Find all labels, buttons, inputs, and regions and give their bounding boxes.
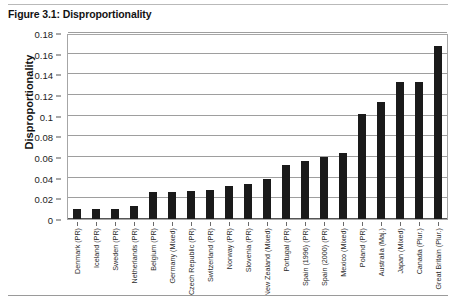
bar-slot: [87, 35, 106, 219]
x-axis-slot: Mexico (Mixed): [334, 222, 353, 296]
x-axis-tick-label: Slovenia (PR): [243, 228, 252, 272]
y-axis-tick-label: 0.06: [35, 153, 54, 164]
x-axis-tick-mark: [419, 222, 420, 226]
x-axis-slot: Portugal (PR): [277, 222, 296, 296]
bar-slot: [68, 35, 87, 219]
x-axis-tick-label: Japan (Mixed): [396, 228, 405, 274]
figure-title: Figure 3.1: Disproportionality: [8, 8, 151, 20]
x-axis-slot: Germany (Mixed): [162, 222, 181, 296]
y-axis-tick-mark: [56, 116, 61, 117]
bar: [187, 191, 195, 219]
x-axis-slot: Denmark (PR): [67, 222, 86, 296]
bar-slot: [409, 35, 428, 219]
x-axis-tick-mark: [438, 222, 439, 226]
y-axis-tick-mark: [56, 54, 61, 55]
x-axis-tick-mark: [362, 222, 363, 226]
x-axis-tick-mark: [267, 222, 268, 226]
bar: [149, 192, 157, 219]
x-axis-tick-label: Australia (Maj.): [377, 228, 386, 276]
x-axis-slot: Belgium (PR): [143, 222, 162, 296]
x-axis-tick-mark: [210, 222, 211, 226]
x-axis-slot: Spain (1996) (PR): [296, 222, 315, 296]
x-axis-tick-mark: [229, 222, 230, 226]
bar-slot: [333, 35, 352, 219]
bar: [92, 209, 100, 219]
x-axis-slot: Canada (Plur.): [410, 222, 429, 296]
x-axis-slot: Netherlands (PR): [124, 222, 143, 296]
bar-chart: Disproportionality 00.020.040.060.080.10…: [0, 26, 456, 296]
y-axis-tick-mark: [56, 199, 61, 200]
bar: [434, 46, 442, 219]
x-axis-tick-mark: [191, 222, 192, 226]
bar: [358, 114, 366, 219]
bar: [225, 186, 233, 219]
bar: [168, 192, 176, 219]
y-axis-tick-mark: [56, 178, 61, 179]
y-axis-tick-mark: [56, 34, 61, 35]
bar-slot: [125, 35, 144, 219]
top-divider: [8, 4, 448, 5]
bar-slot: [220, 35, 239, 219]
y-axis-tick-label: 0.16: [35, 49, 54, 60]
x-axis-tick-mark: [115, 222, 116, 226]
x-axis-tick-mark: [400, 222, 401, 226]
bar-series: [68, 35, 447, 219]
y-axis-tick-label: 0.04: [35, 173, 54, 184]
x-axis-slot: Iceland (PR): [86, 222, 105, 296]
bottom-divider: [8, 295, 448, 296]
x-axis-tick-label: Canada (Plur.): [415, 228, 424, 274]
x-axis-tick-label: Norway (PR): [224, 228, 233, 269]
bar: [339, 153, 347, 219]
x-axis-slot: Norway (PR): [219, 222, 238, 296]
x-axis-tick-label: Sweden (PR): [110, 228, 119, 271]
x-axis-tick-label: Great Britain (Plur.): [434, 228, 443, 290]
plot-area: [67, 34, 448, 220]
x-axis-slot: Japan (Mixed): [391, 222, 410, 296]
bar: [111, 209, 119, 219]
y-axis-tick-label: 0.14: [35, 70, 54, 81]
x-axis-tick-label: New Zealand (Mixed): [262, 228, 271, 296]
bar-slot: [106, 35, 125, 219]
x-axis-tick-mark: [77, 222, 78, 226]
bar: [73, 209, 81, 219]
bar: [244, 184, 252, 219]
x-axis-tick-label: Portugal (PR): [282, 228, 291, 272]
x-axis-tick-mark: [153, 222, 154, 226]
y-axis-tick-label: 0.1: [40, 111, 53, 122]
x-axis-tick-label: Germany (Mixed): [167, 228, 176, 284]
y-axis-tick-mark: [56, 158, 61, 159]
y-axis-tick-mark: [56, 137, 61, 138]
bar-slot: [428, 35, 447, 219]
x-axis-tick-label: Iceland (PR): [91, 228, 100, 268]
figure-root: Figure 3.1: Disproportionality Dispropor…: [0, 0, 456, 307]
bar-slot: [239, 35, 258, 219]
x-axis-tick-labels: Denmark (PR)Iceland (PR)Sweden (PR)Nethe…: [67, 222, 448, 296]
y-axis-tick-mark: [56, 75, 61, 76]
x-axis-tick-mark: [286, 222, 287, 226]
x-axis-tick-label: Spain (1996) (PR): [301, 228, 310, 286]
y-axis-tick-label: 0: [48, 215, 53, 226]
bar: [396, 82, 404, 219]
x-axis-slot: Slovenia (PR): [238, 222, 257, 296]
x-axis-tick-label: Denmark (PR): [72, 228, 81, 274]
bar-slot: [295, 35, 314, 219]
bar: [301, 161, 309, 219]
bar-slot: [163, 35, 182, 219]
y-axis-tick-labels: 00.020.040.060.080.10.120.140.160.18: [0, 34, 61, 220]
bar: [263, 179, 271, 219]
x-axis-tick-label: Poland (PR): [358, 228, 367, 267]
bar-slot: [390, 35, 409, 219]
x-axis-tick-label: Mexico (Mixed): [339, 228, 348, 277]
x-axis-slot: Poland (PR): [353, 222, 372, 296]
y-axis-tick-label: 0.08: [35, 132, 54, 143]
x-axis-tick-mark: [381, 222, 382, 226]
x-axis-tick-mark: [248, 222, 249, 226]
bar-slot: [201, 35, 220, 219]
x-axis-slot: Australia (Maj.): [372, 222, 391, 296]
y-axis-tick-mark: [56, 96, 61, 97]
bar-slot: [352, 35, 371, 219]
bar-slot: [371, 35, 390, 219]
y-axis-tick-label: 0.02: [35, 194, 54, 205]
x-axis-slot: New Zealand (Mixed): [257, 222, 276, 296]
bar: [206, 190, 214, 219]
